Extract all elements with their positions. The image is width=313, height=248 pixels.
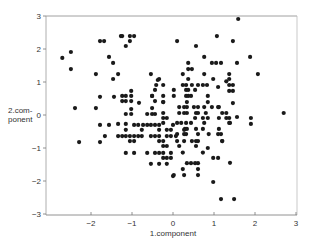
data-point bbox=[120, 134, 124, 138]
data-point bbox=[196, 132, 200, 136]
y-tick-label: 0 bbox=[37, 111, 42, 120]
data-point bbox=[129, 94, 133, 98]
y-tick-label: −3 bbox=[32, 210, 42, 219]
data-point bbox=[207, 132, 211, 136]
data-point bbox=[210, 61, 214, 65]
data-point bbox=[193, 88, 197, 92]
data-point bbox=[98, 95, 102, 99]
data-point bbox=[128, 134, 132, 138]
data-point bbox=[219, 197, 223, 201]
data-point bbox=[112, 95, 116, 99]
data-point bbox=[201, 83, 205, 87]
data-point bbox=[150, 106, 154, 110]
data-point bbox=[124, 128, 128, 132]
y-tick-label: 3 bbox=[37, 12, 42, 21]
data-point bbox=[98, 123, 102, 127]
data-point bbox=[206, 146, 210, 150]
data-point bbox=[132, 134, 136, 138]
data-point bbox=[124, 44, 128, 48]
data-point bbox=[149, 123, 153, 127]
data-point bbox=[196, 173, 200, 177]
data-point bbox=[185, 161, 189, 165]
data-point bbox=[196, 161, 200, 165]
data-point bbox=[231, 101, 235, 105]
data-point bbox=[185, 105, 189, 109]
data-point bbox=[228, 161, 232, 165]
data-point bbox=[129, 89, 133, 93]
data-point bbox=[149, 72, 153, 76]
data-point bbox=[157, 128, 161, 132]
data-point bbox=[185, 127, 189, 131]
data-point bbox=[165, 144, 169, 148]
data-point bbox=[98, 140, 102, 144]
x-tick-label: −1 bbox=[127, 219, 137, 228]
data-point bbox=[157, 123, 161, 127]
data-point bbox=[156, 78, 160, 82]
data-point bbox=[201, 127, 205, 131]
data-point bbox=[172, 173, 176, 177]
data-point bbox=[206, 100, 210, 104]
data-point bbox=[124, 94, 128, 98]
data-point bbox=[185, 111, 189, 115]
data-point bbox=[216, 85, 220, 89]
data-point bbox=[227, 121, 231, 125]
data-point bbox=[196, 111, 200, 115]
data-point bbox=[181, 72, 185, 76]
data-point bbox=[153, 99, 157, 103]
data-point bbox=[186, 67, 190, 71]
data-point bbox=[153, 151, 157, 155]
data-point bbox=[120, 94, 124, 98]
data-point bbox=[219, 132, 223, 136]
data-point bbox=[204, 111, 208, 115]
data-point bbox=[211, 180, 215, 184]
data-point bbox=[177, 144, 181, 148]
data-point bbox=[120, 99, 124, 103]
data-point bbox=[227, 83, 231, 87]
data-point bbox=[193, 116, 197, 120]
data-point bbox=[169, 128, 173, 132]
data-point bbox=[179, 121, 183, 125]
data-point bbox=[161, 94, 165, 98]
data-point bbox=[165, 134, 169, 138]
data-point bbox=[194, 144, 198, 148]
data-point bbox=[182, 139, 186, 143]
data-point bbox=[124, 134, 128, 138]
data-point bbox=[161, 139, 165, 143]
data-point bbox=[161, 100, 165, 104]
x-axis-title: 1.component bbox=[150, 229, 197, 238]
data-point bbox=[132, 139, 136, 143]
data-point bbox=[202, 121, 206, 125]
data-point bbox=[124, 99, 128, 103]
y-axis-title-line-1: 2.com- bbox=[8, 106, 33, 115]
data-point bbox=[215, 34, 219, 38]
data-point bbox=[165, 162, 169, 166]
data-point bbox=[186, 77, 190, 81]
data-point bbox=[102, 39, 106, 43]
data-point bbox=[256, 72, 260, 76]
y-axis-ticks: −3−2−10123 bbox=[32, 12, 46, 219]
data-point bbox=[141, 123, 145, 127]
data-point bbox=[107, 123, 111, 127]
data-point bbox=[107, 55, 111, 59]
data-point bbox=[116, 122, 120, 126]
y-tick-label: 1 bbox=[37, 78, 42, 87]
data-point bbox=[157, 162, 161, 166]
data-point bbox=[184, 83, 188, 87]
data-point bbox=[235, 115, 239, 119]
data-point bbox=[94, 106, 98, 110]
data-point bbox=[282, 111, 286, 115]
y-axis-title-line-2: ponent bbox=[8, 115, 33, 124]
data-point bbox=[94, 72, 98, 76]
data-point bbox=[157, 139, 161, 143]
data-point bbox=[177, 111, 181, 115]
data-point bbox=[235, 61, 239, 65]
data-point bbox=[201, 116, 205, 120]
data-point bbox=[217, 116, 221, 120]
data-point bbox=[140, 128, 144, 132]
data-point bbox=[214, 61, 218, 65]
data-point bbox=[249, 116, 253, 120]
data-point bbox=[120, 34, 124, 38]
data-point bbox=[73, 106, 77, 110]
data-point bbox=[231, 89, 235, 93]
data-point bbox=[216, 105, 220, 109]
